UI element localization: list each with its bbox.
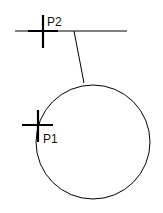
diagram-canvas bbox=[0, 0, 163, 213]
p1-label: P1 bbox=[43, 133, 58, 145]
p2-label: P2 bbox=[47, 16, 62, 28]
connector-line bbox=[74, 31, 84, 83]
